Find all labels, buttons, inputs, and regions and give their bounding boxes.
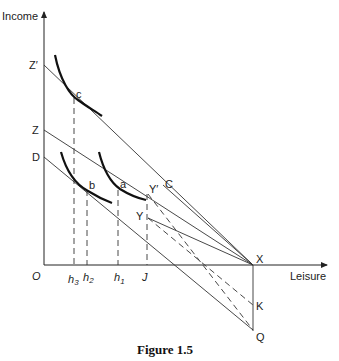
point-z-prime-label: Z′ bbox=[29, 59, 38, 71]
point-q-label: Q bbox=[256, 331, 265, 343]
point-a-label: a bbox=[120, 178, 127, 190]
x-axis-label: Leisure bbox=[290, 270, 326, 282]
point-b-label: b bbox=[89, 179, 95, 191]
point-z-label: Z bbox=[32, 124, 39, 136]
tick-h2-label: h2 bbox=[83, 271, 94, 285]
tick-h1-label: h1 bbox=[114, 271, 125, 286]
indifference-curve-a bbox=[99, 152, 146, 200]
labor-leisure-diagram: Income Leisure O Z′ Z D c b a Y′ Y C X K… bbox=[0, 0, 339, 361]
budget-line-c-x bbox=[163, 185, 253, 265]
y-axis-label: Income bbox=[2, 10, 38, 22]
indifference-curve-c bbox=[55, 55, 102, 116]
point-d-label: D bbox=[32, 151, 40, 163]
point-k-label: K bbox=[256, 300, 264, 312]
line-c-label: C bbox=[165, 178, 173, 190]
tick-j-label: J bbox=[141, 271, 148, 283]
point-c-label: c bbox=[76, 88, 82, 100]
point-x-label: X bbox=[256, 253, 264, 265]
point-y-prime-label: Y′ bbox=[149, 183, 158, 195]
tick-h3-label: h3 bbox=[68, 273, 79, 287]
figure-caption: Figure 1.5 bbox=[137, 342, 194, 357]
origin-label: O bbox=[32, 270, 41, 282]
point-y-label: Y bbox=[136, 210, 144, 222]
budget-line-y-x bbox=[148, 218, 253, 265]
budget-line-z-x bbox=[44, 130, 253, 265]
